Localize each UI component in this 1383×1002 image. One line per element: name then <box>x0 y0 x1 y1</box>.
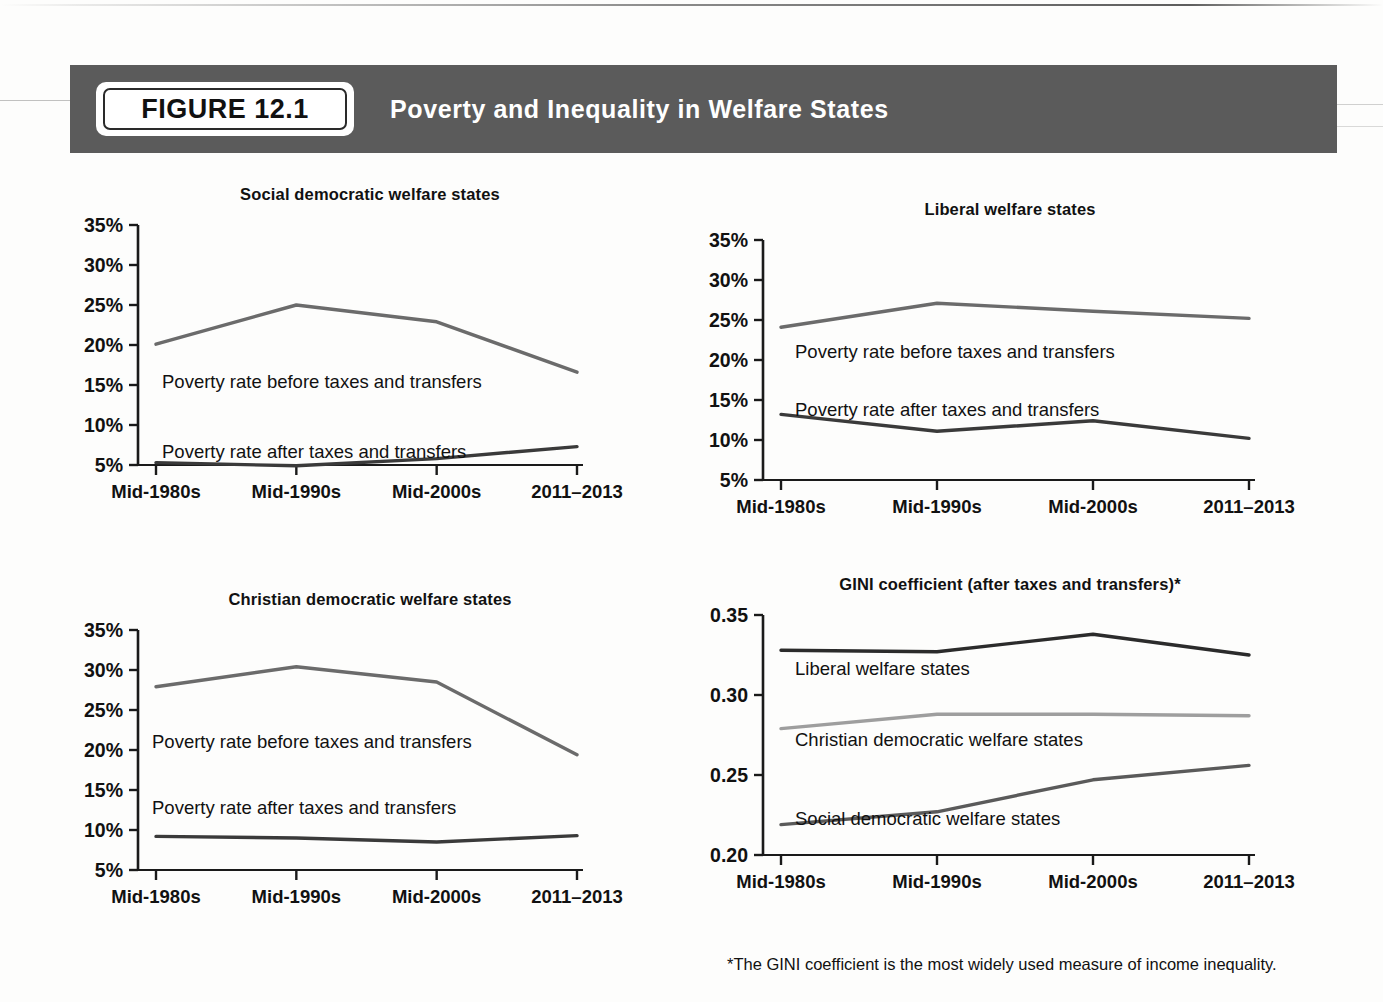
y-axis-tick-label: 25% <box>84 294 123 316</box>
x-axis-tick-label: 2011–2013 <box>1203 496 1295 517</box>
chart-panel-christian-democratic: Christian democratic welfare states 35%3… <box>70 590 670 920</box>
series-annotation-label: Poverty rate after taxes and transfers <box>162 441 466 462</box>
figure-title: Poverty and Inequality in Welfare States <box>390 95 889 124</box>
figure-number-label: FIGURE 12.1 <box>141 94 309 125</box>
chart-panel-gini: GINI coefficient (after taxes and transf… <box>695 575 1325 905</box>
chart-title-gini: GINI coefficient (after taxes and transf… <box>695 575 1325 594</box>
chart-title-christian-democratic: Christian democratic welfare states <box>70 590 670 609</box>
x-axis-tick-label: Mid-1990s <box>252 886 341 907</box>
chart-panel-liberal: Liberal welfare states 35%30%25%20%15%10… <box>695 200 1325 530</box>
x-axis-tick-label: 2011–2013 <box>531 886 623 907</box>
x-axis-tick-label: Mid-1980s <box>736 496 825 517</box>
x-axis-tick-label: Mid-1990s <box>252 481 341 502</box>
y-axis-tick-label: 30% <box>709 269 748 291</box>
y-axis-tick-label: 0.30 <box>710 684 748 706</box>
data-series-line <box>781 303 1249 327</box>
x-axis-tick-label: Mid-1990s <box>892 496 981 517</box>
y-axis-tick-label: 15% <box>84 374 123 396</box>
y-axis-tick-label: 25% <box>709 309 748 331</box>
series-annotation-label: Social democratic welfare states <box>795 808 1060 829</box>
series-annotation-label: Poverty rate before taxes and transfers <box>152 731 472 752</box>
series-annotation-label: Christian democratic welfare states <box>795 729 1083 750</box>
data-series-line <box>156 305 577 372</box>
y-axis-tick-label: 5% <box>95 859 123 881</box>
series-annotation-label: Poverty rate after taxes and transfers <box>152 797 456 818</box>
y-axis-tick-label: 10% <box>84 819 123 841</box>
x-axis-tick-label: Mid-1980s <box>111 886 200 907</box>
y-axis-tick-label: 0.35 <box>710 604 748 626</box>
y-axis-tick-label: 35% <box>84 619 123 641</box>
x-axis-tick-label: 2011–2013 <box>531 481 623 502</box>
y-axis-tick-label: 5% <box>95 454 123 476</box>
y-axis-tick-label: 5% <box>720 469 748 491</box>
figure-number-badge: FIGURE 12.1 <box>96 82 354 136</box>
y-axis-tick-label: 20% <box>709 349 748 371</box>
x-axis-tick-label: Mid-2000s <box>1048 871 1137 892</box>
scan-artifact-line-top <box>0 4 1383 6</box>
chart-panel-social-democratic: Social democratic welfare states 35%30%2… <box>70 185 670 515</box>
plot-area-social-democratic: 35%30%25%20%15%10%5%Mid-1980sMid-1990sMi… <box>70 213 670 513</box>
y-axis-tick-label: 10% <box>709 429 748 451</box>
y-axis-tick-label: 0.25 <box>710 764 748 786</box>
chart-title-liberal: Liberal welfare states <box>695 200 1325 219</box>
plot-area-liberal: 35%30%25%20%15%10%5%Mid-1980sMid-1990sMi… <box>695 228 1325 528</box>
y-axis-tick-label: 10% <box>84 414 123 436</box>
y-axis-tick-label: 25% <box>84 699 123 721</box>
y-axis-tick-label: 15% <box>709 389 748 411</box>
y-axis-tick-label: 30% <box>84 659 123 681</box>
series-annotation-label: Poverty rate before taxes and transfers <box>162 371 482 392</box>
x-axis-tick-label: Mid-1990s <box>892 871 981 892</box>
x-axis-tick-label: Mid-2000s <box>392 481 481 502</box>
series-annotation-label: Liberal welfare states <box>795 658 970 679</box>
y-axis-tick-label: 15% <box>84 779 123 801</box>
x-axis-tick-label: 2011–2013 <box>1203 871 1295 892</box>
data-series-line <box>156 836 577 842</box>
x-axis-tick-label: Mid-1980s <box>111 481 200 502</box>
x-axis-tick-label: Mid-1980s <box>736 871 825 892</box>
y-axis-tick-label: 0.20 <box>710 844 748 866</box>
data-series-line <box>781 714 1249 728</box>
series-annotation-label: Poverty rate before taxes and transfers <box>795 341 1115 362</box>
y-axis-tick-label: 20% <box>84 334 123 356</box>
figure-header-banner: FIGURE 12.1 Poverty and Inequality in We… <box>70 65 1337 153</box>
series-annotation-label: Poverty rate after taxes and transfers <box>795 399 1099 420</box>
y-axis-tick-label: 20% <box>84 739 123 761</box>
y-axis-tick-label: 35% <box>84 214 123 236</box>
plot-area-christian-democratic: 35%30%25%20%15%10%5%Mid-1980sMid-1990sMi… <box>70 618 670 918</box>
chart-title-social-democratic: Social democratic welfare states <box>70 185 670 204</box>
x-axis-tick-label: Mid-2000s <box>392 886 481 907</box>
x-axis-tick-label: Mid-2000s <box>1048 496 1137 517</box>
y-axis-tick-label: 30% <box>84 254 123 276</box>
y-axis-tick-label: 35% <box>709 229 748 251</box>
gini-footnote: *The GINI coefficient is the most widely… <box>727 955 1277 974</box>
plot-area-gini: 0.350.300.250.20Mid-1980sMid-1990sMid-20… <box>695 603 1325 903</box>
data-series-line <box>781 634 1249 655</box>
